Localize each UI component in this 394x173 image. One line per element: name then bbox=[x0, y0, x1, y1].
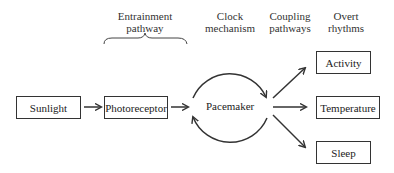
node-sunlight-label: Sunlight bbox=[30, 102, 67, 114]
header-coupling-pathways: Coupling pathways bbox=[265, 10, 315, 34]
header-clock-mechanism: Clock mechanism bbox=[200, 10, 260, 34]
node-sleep-label: Sleep bbox=[331, 147, 355, 159]
entrainment-brace bbox=[104, 33, 187, 44]
header-overt-rhythms: Overt rhythms bbox=[321, 10, 371, 34]
node-temperature-label: Temperature bbox=[320, 102, 375, 114]
node-photoreceptor: Photoreceptor bbox=[104, 96, 168, 119]
pacemaker-cycle-upper-arrow bbox=[193, 74, 266, 98]
node-sleep: Sleep bbox=[316, 141, 371, 164]
node-sunlight: Sunlight bbox=[16, 96, 81, 119]
node-temperature: Temperature bbox=[316, 96, 380, 119]
node-photoreceptor-label: Photoreceptor bbox=[105, 102, 167, 114]
node-pacemaker: Pacemaker bbox=[206, 100, 254, 112]
pacemaker-cycle-lower-arrow bbox=[193, 117, 267, 142]
header-clock-line2: mechanism bbox=[200, 22, 260, 34]
header-overt-line1: Overt bbox=[321, 10, 371, 22]
header-clock-line1: Clock bbox=[200, 10, 260, 22]
header-coupling-line1: Coupling bbox=[265, 10, 315, 22]
arrow-pacemaker-sleep bbox=[273, 115, 305, 147]
header-entrainment-pathway: Entrainment pathway bbox=[110, 10, 180, 34]
node-activity: Activity bbox=[316, 51, 371, 74]
node-pacemaker-label: Pacemaker bbox=[206, 100, 254, 112]
node-activity-label: Activity bbox=[325, 57, 361, 69]
header-coupling-line2: pathways bbox=[265, 22, 315, 34]
arrow-pacemaker-activity bbox=[273, 68, 305, 98]
header-overt-line2: rhythms bbox=[321, 22, 371, 34]
header-entrainment-line2: pathway bbox=[110, 22, 180, 34]
header-entrainment-line1: Entrainment bbox=[110, 10, 180, 22]
